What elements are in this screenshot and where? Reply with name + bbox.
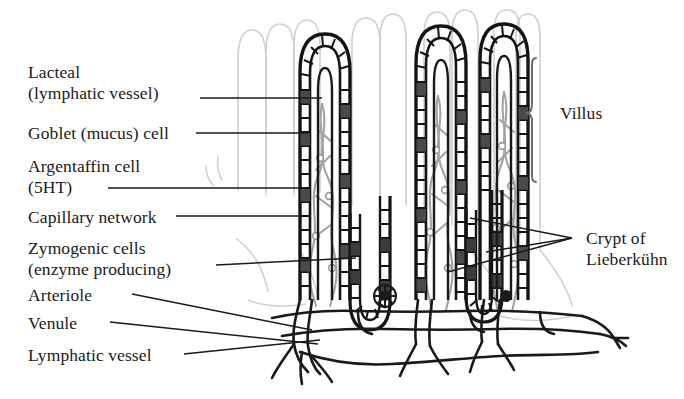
label-argentaffin-line1: Argentaffin cell bbox=[28, 156, 140, 177]
leader-arteriole bbox=[132, 294, 312, 330]
label-lymphatic-vessel: Lymphatic vessel bbox=[28, 345, 152, 366]
submucosa-vessels bbox=[272, 300, 628, 384]
label-lacteal-line2: (lymphatic vessel) bbox=[28, 83, 159, 104]
label-goblet-cell: Goblet (mucus) cell bbox=[28, 123, 169, 144]
label-arteriole-line1: Arteriole bbox=[28, 285, 92, 306]
label-arteriole: Arteriole bbox=[28, 285, 92, 306]
label-argentaffin-cell: Argentaffin cell (5HT) bbox=[28, 156, 140, 198]
label-crypt-line1: Crypt of bbox=[586, 228, 668, 249]
label-lacteal: Lacteal (lymphatic vessel) bbox=[28, 62, 159, 104]
label-goblet-line1: Goblet (mucus) cell bbox=[28, 123, 169, 144]
label-crypt-of-lieberkuhn: Crypt of Lieberkühn bbox=[586, 228, 668, 270]
label-villus-line1: Villus bbox=[560, 103, 602, 124]
label-crypt-line2: Lieberkühn bbox=[586, 249, 668, 270]
label-venule-line1: Venule bbox=[28, 313, 77, 334]
label-capillary-network: Capillary network bbox=[28, 207, 157, 228]
label-venule: Venule bbox=[28, 313, 77, 334]
villus-diagram-svg bbox=[0, 0, 684, 399]
leader-crypt-2 bbox=[470, 218, 572, 238]
label-lymphatic-line1: Lymphatic vessel bbox=[28, 345, 152, 366]
label-lacteal-line1: Lacteal bbox=[28, 62, 159, 83]
label-zymogenic-cells: Zymogenic cells (enzyme producing) bbox=[28, 238, 171, 280]
diagram-canvas: Lacteal (lymphatic vessel) Goblet (mucus… bbox=[0, 0, 684, 399]
label-zymogenic-line2: (enzyme producing) bbox=[28, 259, 171, 280]
label-zymogenic-line1: Zymogenic cells bbox=[28, 238, 171, 259]
label-argentaffin-line2: (5HT) bbox=[28, 177, 140, 198]
label-capillary-line1: Capillary network bbox=[28, 207, 157, 228]
label-villus: Villus bbox=[560, 103, 602, 124]
